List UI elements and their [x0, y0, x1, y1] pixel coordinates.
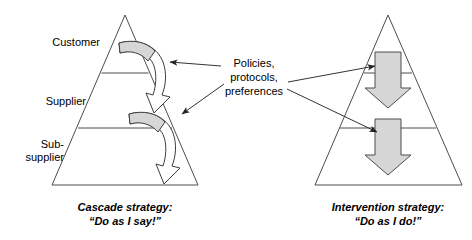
cascade-caption-line1: Cascade strategy:	[55, 200, 195, 214]
connector-to-cascade-upper	[170, 62, 221, 66]
intervention-caption-line2: “Do as I do!”	[312, 214, 464, 228]
cascade-caption-line2: “Do as I say!”	[55, 214, 195, 228]
policies-note-line2: protocols,	[218, 71, 290, 84]
tier-label-supplier: Supplier	[8, 95, 86, 108]
intervention-caption-line1: Intervention strategy:	[312, 200, 464, 214]
diagram-canvas: Customer Supplier Sub- supplier Policies…	[0, 0, 472, 240]
policies-note-line1: Policies,	[218, 57, 290, 70]
policies-note-line3: preferences	[216, 85, 292, 98]
tier-label-sub-supplier: Sub- supplier	[2, 138, 64, 164]
tier-label-customer: Customer	[8, 36, 100, 49]
